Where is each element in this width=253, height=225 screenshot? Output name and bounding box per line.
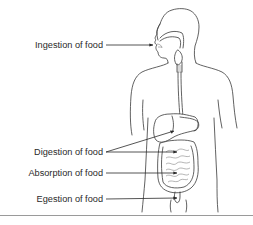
liver-stomach bbox=[154, 114, 199, 142]
mouth-cavity bbox=[157, 31, 184, 48]
arrow-egestion bbox=[106, 198, 177, 199]
digestive-system-diagram: Ingestion of food Digestion of food Abso… bbox=[0, 0, 253, 225]
intestines bbox=[158, 140, 199, 203]
label-ingestion: Ingestion of food bbox=[35, 40, 103, 50]
label-egestion: Egestion of food bbox=[37, 194, 103, 204]
labels: Ingestion of food Digestion of food Abso… bbox=[28, 40, 103, 204]
oesophagus bbox=[175, 50, 184, 117]
label-digestion: Digestion of food bbox=[34, 147, 103, 157]
label-absorption: Absorption of food bbox=[28, 168, 103, 178]
